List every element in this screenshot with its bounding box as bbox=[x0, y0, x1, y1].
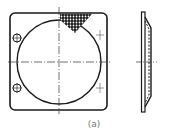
tick-mark-bottom-right bbox=[96, 83, 104, 93]
technical-drawing bbox=[0, 0, 169, 139]
mounting-hole-top bbox=[12, 33, 22, 43]
figure-caption: (a) bbox=[86, 119, 102, 129]
front-view bbox=[8, 7, 110, 114]
side-view bbox=[136, 12, 157, 112]
square-plate bbox=[10, 13, 107, 110]
tick-mark-top-right bbox=[96, 30, 104, 40]
mounting-hole-bottom bbox=[12, 83, 22, 93]
